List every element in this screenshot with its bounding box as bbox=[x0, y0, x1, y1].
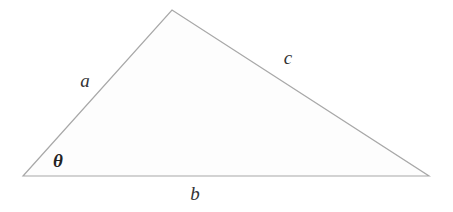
side-label-c: c bbox=[284, 48, 292, 67]
triangle-figure bbox=[0, 0, 453, 212]
side-label-b: b bbox=[190, 184, 200, 203]
side-label-a: a bbox=[80, 71, 90, 90]
triangle-shape bbox=[23, 10, 429, 176]
diagram-canvas: a c b θ bbox=[0, 0, 453, 212]
angle-label-theta: θ bbox=[53, 151, 63, 170]
